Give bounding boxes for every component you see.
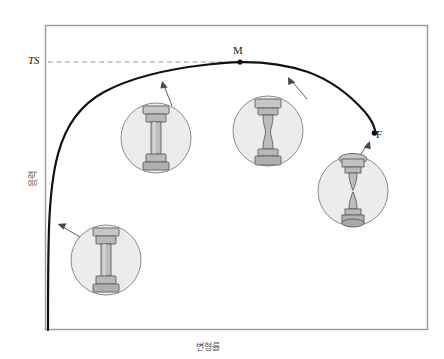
callout-specimen-uniform-mid	[121, 81, 191, 173]
callout-specimen-fractured	[318, 141, 388, 227]
marker-f	[372, 130, 378, 136]
marker-m	[237, 59, 242, 64]
stress-strain-figure	[0, 0, 444, 359]
leader-arrow-2	[160, 81, 167, 88]
callout-specimen-necking	[233, 77, 307, 166]
callout-specimen-uniform-early	[58, 223, 141, 295]
leader-arrow-1	[58, 223, 67, 230]
